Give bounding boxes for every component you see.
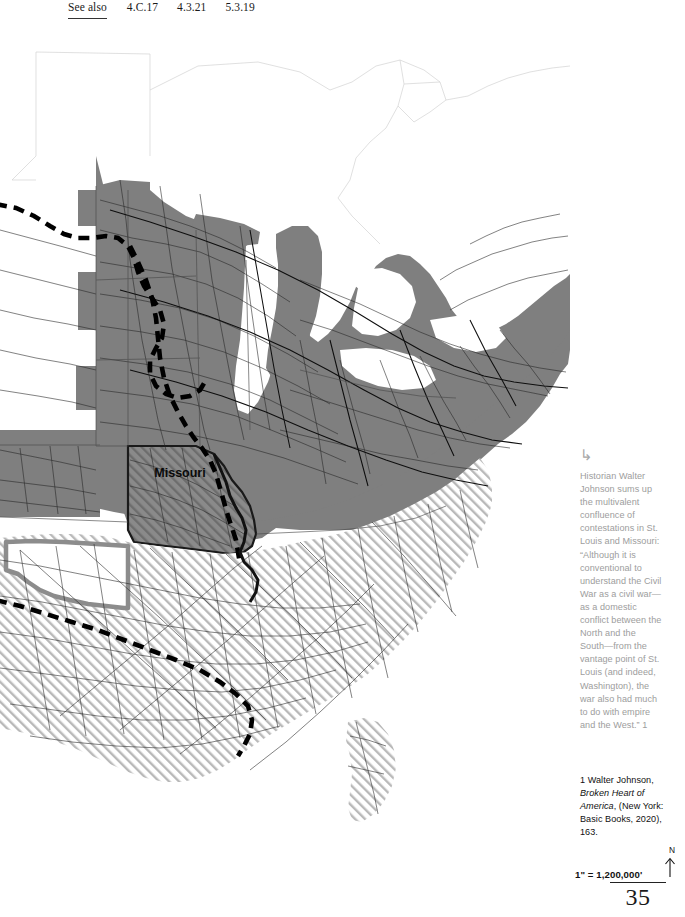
page-number: 35 [608,884,668,910]
page-rule [610,882,666,883]
see-also-ref-1[interactable]: 4.C.17 [127,1,158,13]
map-figure[interactable]: Missouri [0,30,570,890]
north-indicator: N [663,846,681,878]
north-arrow-icon [663,856,677,878]
see-also-bar: See also 4.C.17 4.3.21 5.3.19 [0,0,685,30]
scale-text: 1" = 1,200,000' [575,869,642,880]
see-also-ref-2[interactable]: 4.3.21 [177,1,206,13]
civil-war-railroad-map[interactable]: Missouri [0,30,570,890]
footnote-block: 1 Walter Johnson, Broken Heart of Americ… [580,774,680,839]
margin-annotation-block: ↳ Historian Walter Johnson sums up the m… [580,448,685,732]
missouri-label: Missouri [154,466,205,480]
footnote-author: 1 Walter Johnson, [580,775,654,785]
corner-arrow-icon: ↳ [580,448,685,464]
page-footer: 35 [608,882,668,910]
see-also-ref-3[interactable]: 5.3.19 [225,1,254,13]
see-also-label: See also [68,1,107,19]
annotation-body-text: Historian Walter Johnson sums up the mul… [580,470,662,732]
north-label: N [663,846,681,855]
